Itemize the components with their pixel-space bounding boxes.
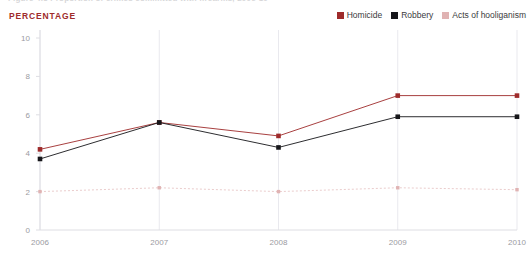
- x-tick-label: 2010: [487, 238, 531, 247]
- grid-layer: [40, 30, 517, 230]
- data-point-robbery: [38, 157, 43, 162]
- y-tick-label: 2: [8, 187, 30, 196]
- chart-figure: Figure 4.3 Proportion of crimes committe…: [0, 0, 531, 257]
- data-point-robbery: [157, 120, 162, 125]
- data-point-robbery: [395, 114, 400, 119]
- data-point-acts-of-hooliganism: [158, 186, 161, 189]
- y-tick-label: 10: [8, 34, 30, 43]
- data-point-robbery: [276, 145, 281, 150]
- plot-area: 0246810 20062007200820092010: [0, 0, 531, 257]
- data-point-homicide: [38, 147, 43, 152]
- data-point-acts-of-hooliganism: [396, 186, 399, 189]
- x-tick-label: 2007: [129, 238, 189, 247]
- y-tick-label: 8: [8, 72, 30, 81]
- y-tick-label: 0: [8, 226, 30, 235]
- x-tick-label: 2006: [10, 238, 70, 247]
- data-point-acts-of-hooliganism: [38, 190, 41, 193]
- y-tick-label: 4: [8, 149, 30, 158]
- data-point-homicide: [276, 134, 281, 139]
- data-point-homicide: [515, 93, 520, 98]
- axis-layer: [36, 30, 517, 230]
- data-point-acts-of-hooliganism: [515, 188, 518, 191]
- data-point-robbery: [515, 114, 520, 119]
- y-tick-label: 6: [8, 110, 30, 119]
- plot-svg: [0, 0, 531, 257]
- data-point-homicide: [395, 93, 400, 98]
- data-point-acts-of-hooliganism: [277, 190, 280, 193]
- x-tick-label: 2008: [249, 238, 309, 247]
- x-tick-label: 2009: [368, 238, 428, 247]
